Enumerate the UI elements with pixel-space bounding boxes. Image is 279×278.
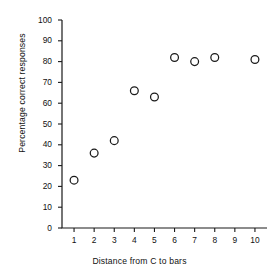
- data-point: [110, 137, 118, 145]
- data-point: [191, 58, 199, 66]
- axes: [62, 20, 267, 228]
- data-point: [171, 54, 179, 62]
- data-point: [70, 176, 78, 184]
- data-point: [90, 149, 98, 157]
- data-point: [151, 93, 159, 101]
- data-point: [211, 54, 219, 62]
- data-point-series: [70, 54, 259, 185]
- axis-lines: [62, 20, 267, 228]
- data-point: [251, 56, 259, 64]
- data-point: [130, 87, 138, 95]
- plot-area: [0, 0, 279, 278]
- scatter-chart: Percentage correct responses Distance fr…: [0, 0, 279, 278]
